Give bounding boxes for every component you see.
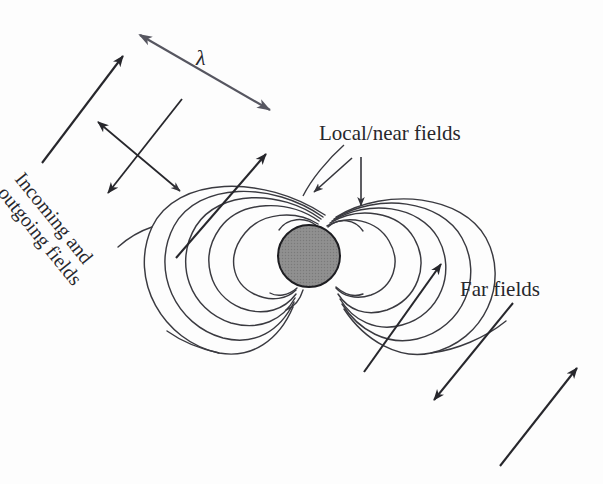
wavelength-lambda-label: λ: [196, 46, 206, 71]
local-fields-leader-diagonal: [314, 158, 352, 192]
far-fields-label: Far fields: [460, 278, 540, 302]
diagram-canvas: [0, 0, 603, 484]
polarization-cross-arrow-b: [108, 99, 182, 193]
far-field-arrow-lower: [500, 368, 577, 466]
dipole-radiation-figure: Local/near fields Far fields λ Incoming …: [0, 0, 603, 484]
incoming-outgoing-arrow-mid: [176, 154, 266, 258]
far-field-polarization-arrow: [434, 303, 513, 400]
local-near-fields-label: Local/near fields: [319, 122, 461, 146]
far-field-arrow-upper: [364, 264, 441, 372]
incoming-outgoing-arrow-long: [42, 56, 123, 163]
polarization-cross-arrow-a: [98, 122, 180, 191]
source-sphere: [278, 225, 340, 287]
